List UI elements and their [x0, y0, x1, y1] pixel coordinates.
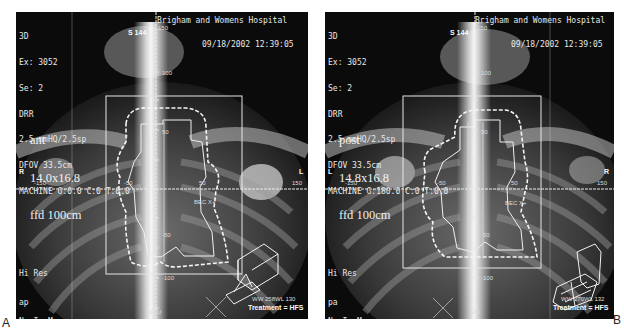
bec-label: BEC X+	[505, 200, 527, 206]
tick-100: 100	[162, 70, 172, 76]
field-size: 14.0x16.8	[30, 172, 82, 185]
scale-top-label: 150	[477, 25, 487, 31]
option-hi-res: Hi Res	[328, 266, 444, 282]
tick-x-150: 150	[597, 180, 607, 186]
drr-panel-anterior: 3D Ex: 3052 Se: 2 DRR 2.5 mmHQ/2.5sp DFO…	[16, 12, 308, 319]
mode-label: 3D	[328, 33, 448, 42]
option-hi-res: Hi Res	[19, 266, 135, 282]
field-info: post 14.8x16.8 ffd 100cm	[339, 109, 391, 247]
side-marker-right: L	[299, 168, 303, 177]
tick-minus-50: -50	[481, 232, 490, 238]
scan-footer-info: pa R:-13.4 A:18.6 S:-19.0 appa_1 W = 245…	[328, 282, 434, 319]
side-marker-left: R	[19, 168, 24, 177]
bottom-mark: HU	[471, 309, 480, 315]
orientation-top: S 144	[128, 29, 146, 38]
exam-number: Ex: 3052	[19, 59, 130, 68]
view-label: pa	[328, 299, 434, 308]
tick-100: 100	[481, 70, 491, 76]
beam-direction: post	[339, 134, 391, 147]
tick-x-150: 150	[292, 180, 302, 186]
tick-minus-100: -100	[162, 275, 174, 281]
side-marker-left: L	[328, 168, 332, 177]
window-level: WW 270WL 132	[561, 296, 604, 302]
tick-50: 50	[481, 129, 488, 135]
tick-50: 50	[162, 129, 169, 135]
field-size: 14.8x16.8	[339, 172, 391, 185]
figure-label-b: B	[613, 313, 621, 327]
scale-top-label: 150	[158, 25, 168, 31]
treatment-position: Treatment = HFS	[553, 304, 608, 313]
focus-distance: ffd 100cm	[30, 209, 82, 222]
tick-minus-50: -50	[162, 232, 171, 238]
exam-number: Ex: 3052	[328, 59, 448, 68]
window-level: WW 258WL 130	[252, 296, 295, 302]
tick-x-50: 50	[511, 180, 518, 186]
bottom-mark: FLU	[150, 309, 161, 315]
hospital-name: Brigham and Womens Hospital	[475, 17, 605, 26]
tick-x-minus-50: -50	[124, 180, 133, 186]
mode-label: 3D	[19, 33, 130, 42]
side-marker-right: R	[604, 168, 609, 177]
tick-x-minus-50: -50	[437, 180, 446, 186]
beam-direction: ant	[30, 134, 82, 147]
treatment-position: Treatment = HFS	[248, 304, 303, 313]
datetime: 09/18/2002 12:39:05	[511, 41, 603, 50]
hospital-name: Brigham and Womens Hospital	[157, 17, 287, 26]
focus-distance: ffd 100cm	[339, 209, 391, 222]
series-number: Se: 2	[19, 85, 130, 94]
datetime: 09/18/2002 12:39:05	[202, 41, 294, 50]
bec-label: BEC X+	[194, 199, 216, 205]
tick-minus-100: -100	[481, 275, 493, 281]
figure-label-a: A	[2, 316, 10, 330]
view-label: ap	[19, 299, 125, 308]
scan-footer-info: ap R:-13.4 A:18.6 S:-19.0 appa_1_1 W = 2…	[19, 282, 125, 319]
series-number: Se: 2	[328, 85, 448, 94]
tick-x-50: 50	[199, 180, 206, 186]
field-info: ant 14.0x16.8 ffd 100cm	[30, 109, 82, 247]
drr-panel-posterior: 3D Ex: 3052 Se: 2 DRR 2.5 mmHQ/2.5sp DFO…	[325, 12, 614, 319]
orientation-top: S 144	[450, 29, 468, 38]
